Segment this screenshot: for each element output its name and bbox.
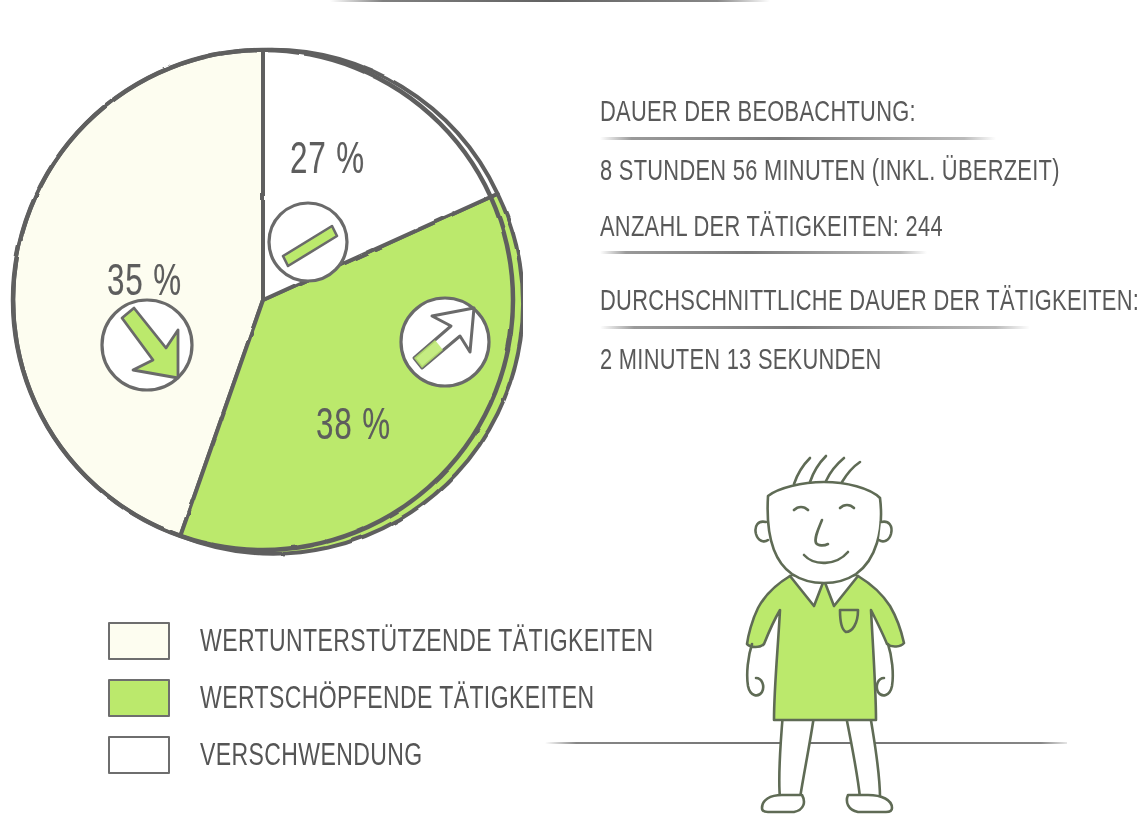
legend-item-value-adding[interactable]: Wertschöpfende Tätigkeiten [108, 669, 578, 726]
info-group-average: Durchschnittliche Dauer der Tätigkeiten:… [600, 284, 1030, 369]
activity-count-text: Anzahl der Tätigkeiten: 244 [600, 210, 1009, 243]
pie-label-cream: 35 % [107, 254, 182, 305]
legend-label-value-supporting: Wertunterstützende Tätigkeiten [200, 623, 654, 659]
duration-underline [600, 137, 996, 140]
duration-heading: Dauer der Beobachtung: [600, 95, 1009, 128]
cartoon-person-illustration [718, 448, 968, 826]
arrow-up-right-icon [401, 298, 489, 386]
pie-chart-svg [8, 40, 523, 565]
legend-label-value-adding: Wertschöpfende Tätigkeiten [200, 680, 594, 716]
average-duration-value: 2 Minuten 13 Sekunden [600, 343, 1009, 376]
chart-legend: Wertunterstützende Tätigkeiten Wertschöp… [108, 612, 578, 783]
activity-count-underline [600, 251, 927, 254]
pie-label-green: 38 % [316, 398, 391, 449]
pie-label-white: 27 % [290, 132, 365, 183]
average-duration-heading: Durchschnittliche Dauer der Tätigkeiten: [600, 284, 1009, 317]
top-divider-rule [330, 0, 770, 2]
legend-item-value-supporting[interactable]: Wertunterstützende Tätigkeiten [108, 612, 578, 669]
info-group-duration: Dauer der Beobachtung: 8 Stunden 56 Minu… [600, 95, 1030, 180]
average-duration-underline [600, 326, 1030, 329]
duration-value: 8 Stunden 56 Minuten (inkl. Überzeit) [600, 154, 1009, 187]
legend-label-waste: Verschwendung [200, 737, 423, 773]
legend-swatch-green [108, 679, 170, 717]
info-group-count: Anzahl der Tätigkeiten: 244 [600, 210, 1030, 255]
legend-swatch-cream [108, 622, 170, 660]
pie-chart: 35 % 38 % 27 % [8, 40, 523, 565]
minus-bar-icon [269, 203, 347, 281]
legend-swatch-white [108, 736, 170, 774]
cartoon-person-svg [718, 448, 968, 826]
arrow-down-right-icon [102, 300, 192, 390]
observation-summary: Dauer der Beobachtung: 8 Stunden 56 Minu… [600, 95, 1030, 399]
legend-item-waste[interactable]: Verschwendung [108, 726, 578, 783]
